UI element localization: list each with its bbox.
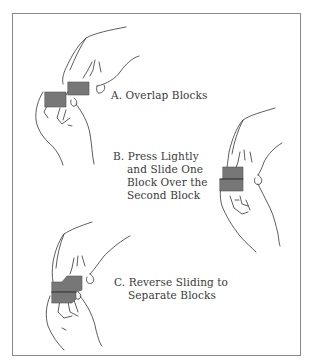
step-c-text-line-2: Separate Blocks (114, 289, 228, 302)
block-b-top (223, 167, 243, 179)
step-b-text-line-1: Press Lightly (128, 150, 199, 162)
block-a-left (45, 92, 66, 107)
step-b-label: B. Press Lightly and Slide One Block Ove… (113, 150, 208, 202)
step-b-text-line-4: Second Block (113, 189, 208, 202)
step-a-label: A. Overlap Blocks (111, 89, 207, 102)
block-c-top (52, 276, 82, 292)
block-a-right (68, 82, 89, 95)
block-b-bottom (220, 179, 243, 191)
block-c-bottom (52, 292, 76, 303)
step-b-letter: B. (113, 150, 124, 162)
step-c-letter: C. (114, 276, 125, 288)
step-a-text-line-1: Overlap Blocks (126, 89, 208, 101)
step-a-letter: A. (111, 89, 122, 101)
step-b-text-line-3: Block Over the (113, 176, 208, 189)
step-c-label: C. Reverse Sliding to Separate Blocks (114, 276, 228, 302)
step-b-text-line-2: and Slide One (113, 163, 208, 176)
step-c-text-line-1: Reverse Sliding to (129, 276, 228, 288)
